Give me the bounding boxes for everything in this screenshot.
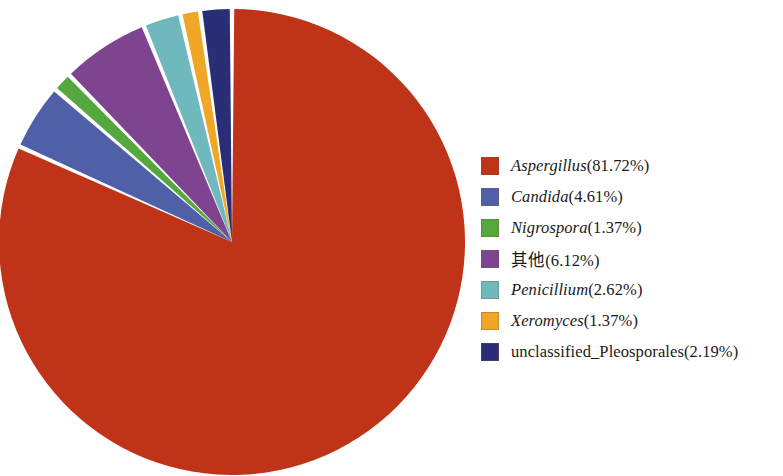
legend-taxon-name: Nigrospora — [511, 218, 588, 237]
legend-percent-value: (6.12%) — [545, 251, 599, 270]
legend-taxon-name: unclassified_Pleosporales — [511, 342, 684, 361]
legend-percent-value: (1.37%) — [588, 218, 642, 237]
legend-swatch-penicillium — [481, 281, 499, 299]
legend-taxon-name: Aspergillus — [511, 156, 587, 175]
legend-swatch-qita — [481, 250, 499, 268]
legend-percent-value: (2.62%) — [588, 280, 642, 299]
legend-item: Xeromyces(1.37%) — [481, 305, 781, 336]
legend-taxon-name: Xeromyces — [511, 311, 584, 330]
legend-swatch-xeromyces — [481, 312, 499, 330]
pie-slice-group — [0, 9, 465, 475]
legend-item-label: 其他(6.12%) — [511, 247, 600, 271]
legend-item-label: Candida(4.61%) — [511, 187, 623, 207]
legend-swatch-candida — [481, 188, 499, 206]
legend-item-label: Xeromyces(1.37%) — [511, 311, 638, 331]
chart-legend: Aspergillus(81.72%)Candida(4.61%)Nigrosp… — [481, 150, 781, 367]
legend-percent-value: (81.72%) — [587, 156, 650, 175]
legend-taxon-name: 其他 — [511, 251, 545, 270]
legend-item: unclassified_Pleosporales(2.19%) — [481, 336, 781, 367]
legend-item-label: Penicillium(2.62%) — [511, 280, 642, 300]
legend-percent-value: (4.61%) — [569, 187, 623, 206]
legend-item: Candida(4.61%) — [481, 181, 781, 212]
legend-swatch-nigrospora — [481, 219, 499, 237]
legend-percent-value: (2.19%) — [684, 342, 738, 361]
legend-item-label: Aspergillus(81.72%) — [511, 156, 649, 176]
legend-swatch-aspergillus — [481, 157, 499, 175]
legend-item: Aspergillus(81.72%) — [481, 150, 781, 181]
legend-item: 其他(6.12%) — [481, 243, 781, 274]
legend-item: Penicillium(2.62%) — [481, 274, 781, 305]
legend-swatch-unclassified-pleosporales — [481, 343, 499, 361]
legend-taxon-name: Penicillium — [511, 280, 588, 299]
legend-item: Nigrospora(1.37%) — [481, 212, 781, 243]
pie-chart-figure: Aspergillus(81.72%)Candida(4.61%)Nigrosp… — [0, 0, 783, 476]
legend-taxon-name: Candida — [511, 187, 569, 206]
legend-percent-value: (1.37%) — [584, 311, 638, 330]
legend-item-label: unclassified_Pleosporales(2.19%) — [511, 342, 738, 362]
legend-item-label: Nigrospora(1.37%) — [511, 218, 642, 238]
